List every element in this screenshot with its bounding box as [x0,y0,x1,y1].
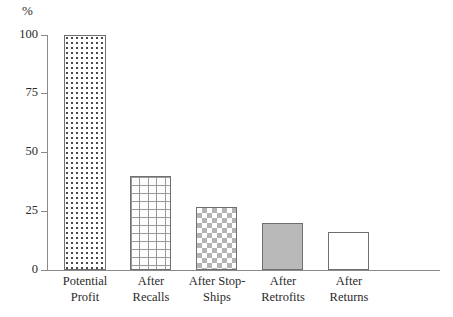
y-tick-label-100: 100 [4,28,38,41]
y-axis-unit-label: % [22,4,33,17]
category-label-after-returns: After Returns [309,274,389,305]
y-axis-line [47,35,48,271]
y-tick-label-25: 25 [4,204,38,217]
x-axis-line [47,270,440,271]
y-tick-50 [41,152,48,153]
y-tick-75 [41,93,48,94]
bar-after-stop-ships [196,207,237,270]
y-tick-label-75: 75 [4,86,38,99]
bar-after-retrofits [262,223,303,270]
bar-potential-profit [64,35,106,270]
bar-after-returns [328,232,369,270]
bar-after-recalls [130,176,171,270]
y-tick-25 [41,211,48,212]
y-tick-label-0: 0 [4,263,38,276]
bar-chart: % 100 75 50 25 0 Potential Profit After … [0,0,453,317]
y-tick-label-50: 50 [4,145,38,158]
y-tick-100 [41,35,48,36]
